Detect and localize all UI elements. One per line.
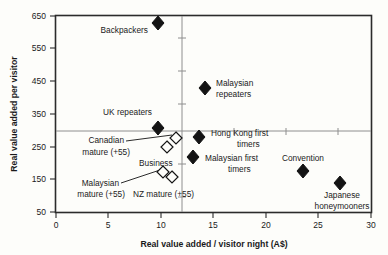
- leader-canadian: [126, 135, 172, 141]
- x-tick-label-5: 5: [106, 220, 111, 230]
- label-malaysian-mature-line2: mature (+55): [77, 189, 125, 199]
- marker-malaysian-repeaters[interactable]: [199, 81, 211, 95]
- label-business: Business: [139, 158, 173, 168]
- label-malaysian-first-line2: timers: [228, 164, 251, 174]
- marker-japanese-honeymooners[interactable]: [334, 176, 346, 190]
- y-tick-label-50: 50: [37, 207, 47, 217]
- marker-uk-repeaters[interactable]: [152, 121, 164, 135]
- label-malaysian-repeaters-line2: repeaters: [216, 89, 251, 99]
- label-nz-mature: NZ mature (+55): [133, 189, 194, 199]
- y-tick-label-550: 550: [32, 43, 46, 53]
- scatter-chart: 50 150 250 350 450 550 650 0 5 10 15 20 …: [0, 0, 388, 255]
- label-hong-kong-line2: timers: [237, 139, 260, 149]
- x-tick-label-30: 30: [366, 220, 376, 230]
- x-axis-tick-labels: 0 5 10 15 20 25 30: [54, 220, 376, 230]
- y-tick-label-450: 450: [32, 76, 46, 86]
- label-convention: Convention: [282, 153, 324, 163]
- label-japanese-line1: Japanese: [324, 190, 360, 200]
- y-tick-label-350: 350: [32, 109, 46, 119]
- marker-hong-kong-first-timers[interactable]: [193, 130, 205, 144]
- label-japanese-line2: honeymooners: [315, 201, 370, 211]
- label-uk-repeaters: UK repeaters: [103, 107, 152, 117]
- label-hong-kong-line1: Hong Kong first: [211, 128, 269, 138]
- label-malaysian-repeaters-line1: Malaysian: [216, 78, 254, 88]
- label-canadian-line2: mature (+55): [82, 147, 130, 157]
- x-tick-label-0: 0: [54, 220, 59, 230]
- x-axis-title: Real value added / visitor night (A$): [140, 239, 287, 249]
- x-tick-label-15: 15: [208, 220, 218, 230]
- leader-malaysian-mature: [121, 170, 160, 183]
- label-backpackers: Backpackers: [101, 25, 149, 35]
- y-axis-tick-labels: 50 150 250 350 450 550 650: [32, 11, 46, 217]
- x-tick-label-20: 20: [261, 220, 271, 230]
- marker-malaysian-first-timers[interactable]: [187, 150, 199, 164]
- marker-canadian-mature[interactable]: [170, 132, 182, 144]
- marker-backpackers[interactable]: [152, 16, 164, 30]
- y-tick-label-250: 250: [32, 142, 46, 152]
- marker-convention[interactable]: [297, 164, 309, 178]
- chart-svg: 50 150 250 350 450 550 650 0 5 10 15 20 …: [0, 0, 388, 255]
- marker-business[interactable]: [161, 141, 173, 153]
- y-tick-label-150: 150: [32, 174, 46, 184]
- y-tick-label-650: 650: [32, 11, 46, 21]
- x-tick-label-10: 10: [156, 220, 166, 230]
- y-axis-title: Real value added per visitor: [9, 56, 19, 172]
- x-tick-label-25: 25: [313, 220, 323, 230]
- label-canadian-line1: Canadian: [88, 135, 124, 145]
- label-malaysian-first-line1: Malaysian first: [205, 153, 259, 163]
- label-malaysian-mature-line1: Malaysian: [82, 178, 120, 188]
